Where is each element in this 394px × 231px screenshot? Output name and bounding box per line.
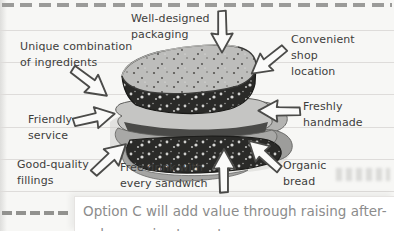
label-organic-bread: Organic bread — [283, 158, 327, 190]
label-unique-combination: Unique combination of ingredients — [20, 39, 132, 71]
ink-bleedthrough — [336, 168, 390, 181]
top-dashed-border — [2, 3, 392, 7]
label-line: Organic — [283, 158, 327, 174]
label-free-drink: Free drink with every sandwich — [120, 160, 207, 192]
label-line: shop — [291, 48, 355, 64]
notebook-page: Well-designed packaging Unique combinati… — [0, 0, 394, 231]
label-line: Convenient — [291, 32, 355, 48]
label-line: Friendly — [28, 112, 72, 128]
packaging-arrow-icon — [209, 9, 235, 55]
label-line: packaging — [131, 27, 210, 43]
label-line: bread — [283, 174, 327, 190]
caption-block: Option C will add value through raising … — [74, 196, 394, 231]
label-friendly-service: Friendly service — [28, 112, 72, 144]
label-line: Unique combination — [20, 39, 132, 55]
label-line: Well-designed — [131, 11, 210, 27]
label-line: of ingredients — [20, 55, 132, 71]
label-line: service — [28, 128, 72, 144]
label-good-quality-fillings: Good-quality fillings — [17, 157, 89, 189]
label-freshly-handmade: Freshly handmade — [303, 99, 363, 131]
label-line: every sandwich — [120, 176, 207, 192]
caption-text: Option C will add value through raising … — [83, 203, 387, 219]
caption-text-clipped: sales service to customers — [85, 226, 265, 231]
bottom-dashed-border — [2, 211, 68, 215]
label-line: handmade — [303, 115, 363, 131]
label-line: fillings — [17, 173, 89, 189]
free-drink-arrow-icon — [211, 147, 238, 195]
freshly-handmade-arrow-icon — [256, 98, 302, 125]
label-line: Freshly — [303, 99, 363, 115]
label-line: Free drink with — [120, 160, 207, 176]
label-convenient-shop-location: Convenient shop location — [291, 32, 355, 80]
label-well-designed-packaging: Well-designed packaging — [131, 11, 210, 43]
label-line: location — [291, 64, 355, 80]
page-left-shadow — [0, 0, 7, 231]
label-line: Good-quality — [17, 157, 89, 173]
